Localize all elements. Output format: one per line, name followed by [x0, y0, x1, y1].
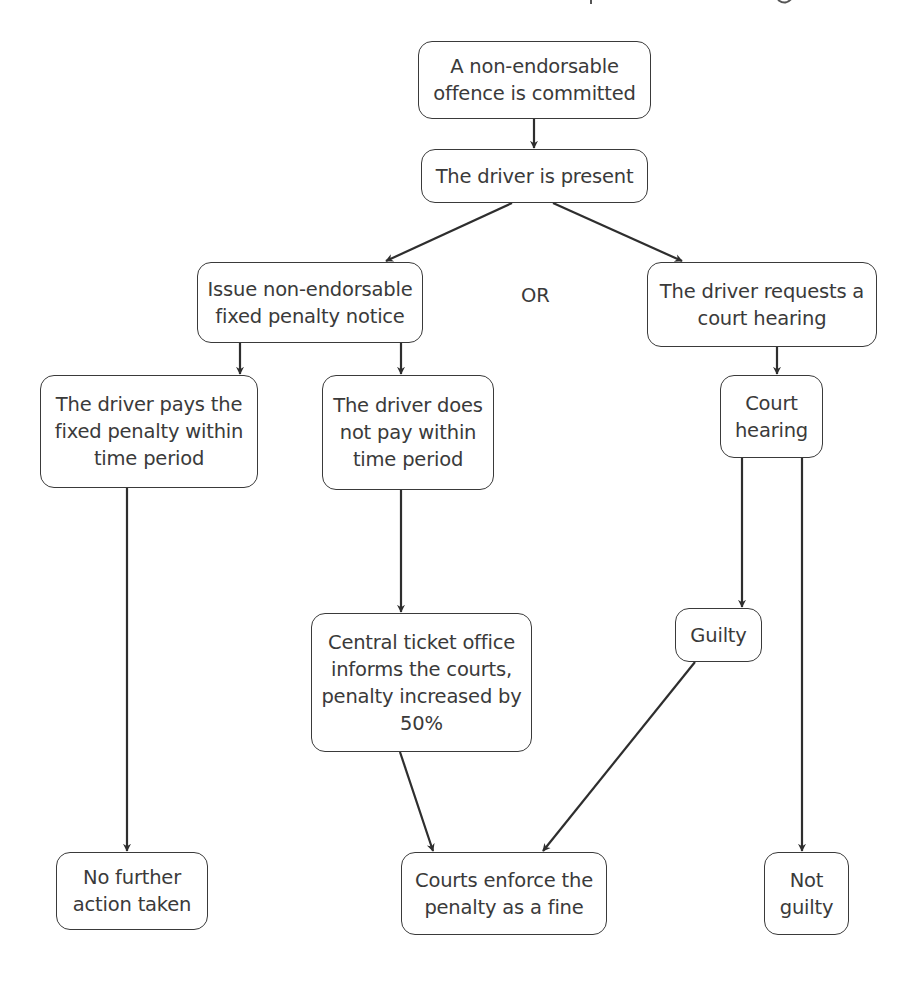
arrow-guilty-to-enforce: [543, 662, 695, 851]
caption-descenders: [0, 0, 912, 4]
flowchart-canvas: A non-endorsable offence is committed Th…: [0, 0, 912, 981]
or-separator: OR: [521, 284, 550, 307]
node-label: Courts enforce the penalty as a fine: [415, 867, 593, 921]
node-guilty: Guilty: [675, 608, 762, 662]
node-label: Court hearing: [735, 390, 808, 444]
node-label: Issue non-endorsable fixed penalty notic…: [208, 276, 413, 330]
node-request-hearing: The driver requests a court hearing: [647, 262, 877, 347]
node-no-further-action: No further action taken: [56, 852, 208, 930]
node-label: A non-endorsable offence is committed: [433, 53, 635, 107]
node-courts-enforce-fine: Courts enforce the penalty as a fine: [401, 852, 607, 935]
node-not-guilty: Not guilty: [764, 852, 849, 935]
arrow-present-to-issue: [386, 203, 512, 261]
arrow-present-to-request: [553, 203, 682, 261]
node-central-ticket-office: Central ticket office informs the courts…: [311, 613, 532, 752]
cropped-caption-fragment: [0, 0, 912, 4]
node-court-hearing: Court hearing: [720, 375, 823, 458]
node-label: Guilty: [690, 622, 746, 649]
node-issue-notice: Issue non-endorsable fixed penalty notic…: [197, 262, 423, 343]
node-label: No further action taken: [73, 864, 191, 918]
node-label: Not guilty: [780, 867, 834, 921]
node-driver-not-pay: The driver does not pay within time peri…: [322, 375, 494, 490]
node-driver-pays: The driver pays the fixed penalty within…: [40, 375, 258, 488]
node-label: The driver does not pay within time peri…: [333, 392, 483, 473]
node-label: Central ticket office informs the courts…: [321, 629, 521, 737]
node-offence-committed: A non-endorsable offence is committed: [418, 41, 651, 119]
node-label: The driver requests a court hearing: [660, 278, 864, 332]
node-label: The driver pays the fixed penalty within…: [55, 391, 243, 472]
connector-layer: [0, 0, 912, 981]
arrow-central-to-enforce: [400, 752, 433, 851]
node-driver-present: The driver is present: [421, 149, 648, 203]
node-label: The driver is present: [436, 163, 634, 190]
